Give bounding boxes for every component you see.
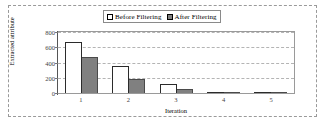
bar-group: [58, 32, 105, 93]
chart-legend: Before Filtering After Filtering: [103, 10, 221, 23]
bar: [176, 89, 193, 93]
x-tick-label: 2: [105, 96, 153, 103]
bar: [270, 92, 287, 93]
bar: [128, 79, 145, 93]
open-square-marker-icon: [107, 14, 113, 20]
plot-area: 0200400600800: [57, 31, 295, 94]
x-tick-label: 5: [247, 96, 295, 103]
filled-square-marker-icon: [167, 14, 173, 20]
bar-groups: [58, 32, 294, 93]
y-axis-title: Extracted attribute: [8, 4, 15, 80]
bar: [207, 92, 224, 93]
y-tick-label: 200: [45, 74, 55, 81]
bar-group: [200, 32, 247, 93]
legend-entry-before-filtering: Before Filtering: [107, 13, 162, 21]
bar: [160, 84, 177, 93]
x-tick-label: 3: [152, 96, 200, 103]
legend-entry-after-filtering: After Filtering: [167, 13, 217, 21]
bar-group: [105, 32, 152, 93]
bar: [112, 66, 129, 93]
x-tick-label: 1: [57, 96, 105, 103]
bar: [65, 42, 82, 93]
bar: [81, 57, 98, 93]
x-axis-title: Iteration: [57, 107, 295, 114]
x-axis-ticks: 12345: [57, 96, 295, 103]
y-tick-label: 800: [45, 29, 55, 36]
legend-label-after-filtering: After Filtering: [175, 13, 217, 21]
bar-group: [152, 32, 199, 93]
y-tick-label: 600: [45, 44, 55, 51]
bar: [223, 92, 240, 93]
y-tick-mark: [55, 93, 58, 94]
x-tick-label: 4: [200, 96, 248, 103]
bar: [254, 92, 271, 93]
y-tick-label: 400: [45, 59, 55, 66]
chart-figure: Before Filtering After Filtering Extract…: [0, 0, 326, 124]
bar-group: [247, 32, 294, 93]
legend-label-before-filtering: Before Filtering: [115, 13, 162, 21]
